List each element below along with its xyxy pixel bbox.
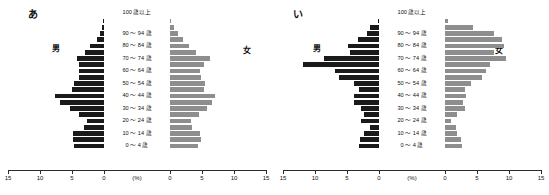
female-bar — [445, 87, 465, 92]
male-bar — [72, 87, 104, 92]
male-bar — [360, 137, 379, 142]
female-bar — [445, 100, 463, 105]
pyramid-plot-b: 100 歳以上 90 ～ 94 歳80 ～ 84 歳70 ～ 74 歳60 ～ … — [283, 18, 541, 168]
male-half — [8, 118, 104, 124]
female-half — [445, 68, 541, 74]
female-half — [445, 112, 541, 118]
male-half — [8, 93, 104, 99]
pyramid-row: 40 ～ 44 歳 — [8, 93, 266, 99]
female-bar — [445, 31, 494, 36]
male-half — [8, 68, 104, 74]
male-bar — [354, 81, 380, 86]
axis-tick-label: 15 — [5, 175, 12, 181]
male-half — [8, 124, 104, 130]
male-bar — [350, 50, 379, 55]
male-half — [283, 112, 379, 118]
male-half — [283, 106, 379, 112]
female-bar — [170, 112, 199, 117]
male-half — [283, 143, 379, 149]
female-bar — [170, 131, 200, 136]
female-bar — [170, 94, 215, 99]
male-bar — [361, 106, 379, 111]
x-axis-a: 151050(%)051015 — [8, 170, 266, 192]
age-group-label: 0 ～ 4 歳 — [104, 143, 170, 149]
axis-tick — [170, 170, 171, 174]
female-half — [170, 81, 266, 87]
male-bar — [87, 119, 104, 124]
female-half — [445, 118, 541, 124]
male-half — [283, 37, 379, 43]
axis-tick-label: 15 — [538, 175, 545, 181]
pyramid-row: 70 ～ 74 歳 — [283, 56, 541, 62]
age-group-label: 60 ～ 64 歳 — [104, 68, 170, 74]
male-half — [283, 31, 379, 37]
female-bar — [170, 31, 178, 36]
male-half — [8, 18, 104, 24]
male-half — [8, 131, 104, 137]
male-half — [283, 68, 379, 74]
female-half — [170, 62, 266, 68]
pyramid-row: 80 ～ 84 歳 — [283, 43, 541, 49]
age-group-label: 90 ～ 94 歳 — [104, 31, 170, 37]
female-bar — [170, 25, 174, 30]
male-half — [283, 62, 379, 68]
male-half — [8, 87, 104, 93]
female-half — [445, 24, 541, 30]
female-bar — [170, 137, 201, 142]
male-bar — [100, 31, 104, 36]
female-bar — [170, 75, 201, 80]
male-bar — [364, 131, 379, 136]
male-bar — [103, 19, 104, 24]
pyramid-rows-b: 90 ～ 94 歳80 ～ 84 歳70 ～ 74 歳60 ～ 64 歳50 ～… — [283, 18, 541, 168]
female-half — [170, 37, 266, 43]
male-bar — [361, 119, 379, 124]
pyramid-row: 0 ～ 4 歳 — [8, 143, 266, 149]
pyramid-row: 10 ～ 14 歳 — [8, 131, 266, 137]
female-half — [445, 56, 541, 62]
female-bar — [445, 50, 494, 55]
pyramid-row: 60 ～ 64 歳 — [283, 68, 541, 74]
female-bar — [445, 37, 502, 42]
female-half — [445, 62, 541, 68]
axis-tick-label: 10 — [506, 175, 513, 181]
pyramid-panel-a: あ 男 女 100 歳以上 90 ～ 94 歳80 ～ 84 歳70 ～ 74 … — [0, 0, 274, 195]
female-bar — [445, 19, 448, 24]
female-bar — [170, 62, 204, 67]
age-group-label: 90 ～ 94 歳 — [379, 31, 445, 37]
female-bar — [445, 81, 471, 86]
male-bar — [370, 25, 379, 30]
pyramid-row: 60 ～ 64 歳 — [8, 68, 266, 74]
male-bar — [60, 100, 104, 105]
female-bar — [445, 106, 465, 111]
male-bar — [79, 112, 104, 117]
female-half — [170, 143, 266, 149]
male-half — [283, 137, 379, 143]
axis-tick — [8, 170, 9, 174]
male-half — [283, 93, 379, 99]
axis-tick — [509, 170, 510, 174]
age-group-label: 40 ～ 44 歳 — [104, 93, 170, 99]
axis-unit-label: (%) — [407, 175, 416, 181]
female-bar — [170, 106, 207, 111]
female-bar — [170, 56, 210, 61]
age-group-label: 50 ～ 54 歳 — [104, 81, 170, 87]
male-half — [283, 124, 379, 130]
axis-tick-label: 5 — [70, 175, 73, 181]
female-bar — [445, 144, 462, 149]
pyramid-row: 20 ～ 24 歳 — [8, 118, 266, 124]
pyramid-row: 70 ～ 74 歳 — [8, 56, 266, 62]
pyramid-row: 40 ～ 44 歳 — [283, 93, 541, 99]
male-half — [8, 74, 104, 80]
age-group-label: 80 ～ 84 歳 — [104, 43, 170, 49]
axis-tick — [541, 170, 542, 174]
age-group-label: 0 ～ 4 歳 — [379, 143, 445, 149]
age-group-label: 30 ～ 34 歳 — [104, 106, 170, 112]
pyramid-row: 90 ～ 94 歳 — [8, 31, 266, 37]
axis-tick — [283, 170, 284, 174]
female-half — [170, 49, 266, 55]
male-bar — [74, 81, 104, 86]
female-half — [445, 143, 541, 149]
female-bar — [445, 137, 461, 142]
male-bar — [354, 100, 379, 105]
male-bar — [70, 106, 104, 111]
